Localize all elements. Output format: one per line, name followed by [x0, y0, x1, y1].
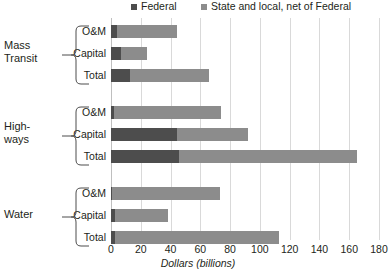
bar-highways-total: [111, 150, 357, 163]
x-tick-label-140: 140: [311, 243, 329, 255]
group-label-water: Water: [4, 208, 33, 221]
x-tick-label-0: 0: [108, 243, 114, 255]
x-tick-label-20: 20: [135, 243, 147, 255]
legend-item-state-and-local: State and local, net of Federal: [201, 1, 351, 12]
bar-segment-federal: [111, 47, 121, 60]
brace-highways: [45, 105, 90, 167]
brace-mass-transit: [45, 24, 90, 86]
x-tick-label-160: 160: [340, 243, 358, 255]
bar-water-capital: [111, 209, 168, 222]
x-tick-label-80: 80: [224, 243, 236, 255]
bar-segment-state-and-local: [114, 106, 221, 119]
gridline-180: [379, 18, 380, 240]
bar-water-oandm: [111, 187, 220, 200]
group-label-mass-transit-line2: Transit: [4, 52, 37, 65]
bar-segment-federal: [111, 128, 177, 141]
legend-swatch-federal: [131, 4, 137, 10]
bar-segment-federal: [111, 69, 130, 82]
x-tick-label-100: 100: [251, 243, 269, 255]
bar-mass-transit-oandm: [111, 25, 177, 38]
category-label-column: O&M Capital Total O&M Capital Total O&M …: [0, 0, 111, 274]
group-label-highways-line2: ways: [4, 133, 29, 146]
bar-segment-federal: [111, 150, 179, 163]
brace-water: [45, 186, 90, 248]
group-label-mass-transit-line1: Mass: [4, 39, 30, 52]
x-tick-label-40: 40: [165, 243, 177, 255]
x-tick-label-120: 120: [281, 243, 299, 255]
legend-swatch-state-and-local: [201, 4, 207, 10]
bar-series-container: [111, 18, 379, 240]
stacked-bar-chart: Federal State and local, net of Federal …: [0, 0, 390, 274]
x-axis-title: Dollars (billions): [161, 257, 236, 269]
legend-label-federal: Federal: [141, 1, 177, 12]
legend-item-federal: Federal: [131, 1, 177, 12]
bar-highways-oandm: [111, 106, 221, 119]
plot-area: [111, 18, 379, 240]
bar-segment-state-and-local: [117, 25, 177, 38]
bar-segment-state-and-local: [130, 69, 209, 82]
bar-segment-state-and-local: [121, 47, 146, 60]
bar-segment-state-and-local: [112, 187, 219, 200]
group-label-highways-line1: High-: [4, 120, 30, 133]
x-tick-label-60: 60: [194, 243, 206, 255]
x-axis: 020406080100120140160180 Dollars (billio…: [0, 240, 390, 274]
legend-label-state-and-local: State and local, net of Federal: [211, 1, 351, 12]
bar-segment-state-and-local: [177, 128, 248, 141]
bar-segment-state-and-local: [179, 150, 356, 163]
bar-segment-state-and-local: [115, 209, 167, 222]
x-tick-label-180: 180: [370, 243, 388, 255]
bar-mass-transit-capital: [111, 47, 147, 60]
bar-mass-transit-total: [111, 69, 209, 82]
bar-highways-capital: [111, 128, 248, 141]
